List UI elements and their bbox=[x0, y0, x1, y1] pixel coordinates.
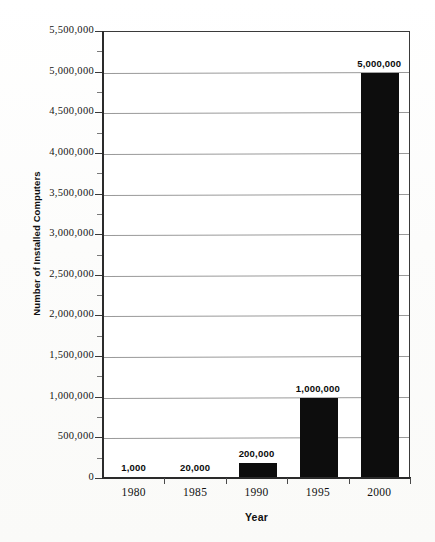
y-tick-label: 5,500,000 bbox=[2, 24, 94, 35]
x-tick-mark bbox=[226, 478, 227, 484]
bar-value-label: 200,000 bbox=[209, 448, 305, 459]
x-tick-mark bbox=[164, 478, 165, 484]
y-tick-label: 3,500,000 bbox=[2, 187, 94, 198]
y-tick-label: 2,000,000 bbox=[2, 308, 94, 319]
y-tick-label: 3,000,000 bbox=[2, 227, 94, 238]
y-tick-label: 0 bbox=[2, 471, 94, 482]
y-tick-label: 4,000,000 bbox=[2, 146, 94, 157]
y-axis-title: Number of Installed Computers bbox=[31, 164, 42, 324]
x-axis-spine bbox=[102, 477, 411, 479]
y-tick-label: 1,000,000 bbox=[2, 390, 94, 401]
plot-area bbox=[103, 31, 410, 478]
plot-inner bbox=[104, 32, 409, 477]
bar-value-label: 1,000,000 bbox=[270, 383, 366, 394]
y-tick-label: 500,000 bbox=[2, 430, 94, 441]
x-axis-title: Year bbox=[103, 511, 410, 523]
x-tick-label: 1980 bbox=[99, 486, 169, 498]
bar bbox=[361, 73, 399, 479]
y-axis-spine bbox=[102, 31, 104, 479]
x-tick-label: 1995 bbox=[283, 486, 353, 498]
x-tick-mark bbox=[349, 478, 350, 484]
chart-screenshot: 0500,0001,000,0001,500,0002,000,0002,500… bbox=[0, 0, 435, 542]
y-tick-label: 5,000,000 bbox=[2, 65, 94, 76]
x-tick-mark bbox=[410, 478, 411, 484]
bar bbox=[300, 398, 338, 479]
x-tick-label: 1990 bbox=[222, 486, 292, 498]
bar-value-label: 20,000 bbox=[147, 462, 243, 473]
y-tick-label: 1,500,000 bbox=[2, 349, 94, 360]
x-tick-label: 2000 bbox=[344, 486, 414, 498]
y-tick-label: 2,500,000 bbox=[2, 268, 94, 279]
x-tick-label: 1985 bbox=[160, 486, 230, 498]
x-tick-mark bbox=[287, 478, 288, 484]
y-tick-label: 4,500,000 bbox=[2, 105, 94, 116]
bar-value-label: 5,000,000 bbox=[331, 58, 427, 69]
